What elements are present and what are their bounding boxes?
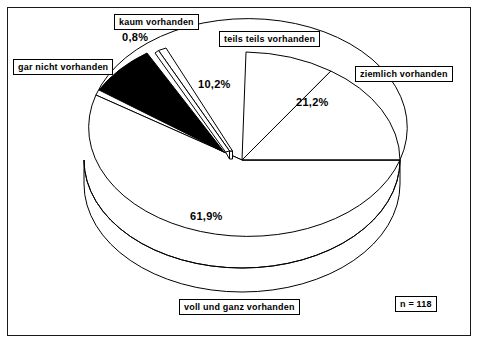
callout-label-kaum-vorhanden: kaum vorhanden <box>114 14 199 30</box>
value-label-teils-teils-vorhanden: 10,2% <box>198 78 231 90</box>
callout-label-gar-nicht-vorhanden: gar nicht vorhanden <box>13 59 113 75</box>
callout-label-teils-teils-vorhanden: teils teils vorhanden <box>219 31 320 47</box>
value-label-kaum-vorhanden: 0,8% <box>122 31 148 43</box>
sample-size-badge: n = 118 <box>395 296 437 312</box>
chart-canvas: kaum vorhanden gar nicht vorhanden teils… <box>0 0 485 350</box>
value-label-voll-und-ganz-vorhanden: 61,9% <box>190 210 223 222</box>
callout-label-ziemlich-vorhanden: ziemlich vorhanden <box>355 66 453 82</box>
value-label-ziemlich-vorhanden: 21,2% <box>296 96 329 108</box>
value-label-gar-nicht-vorhanden: 5,9% <box>122 73 148 85</box>
callout-label-voll-und-ganz-vorhanden: voll und ganz vorhanden <box>179 299 300 315</box>
